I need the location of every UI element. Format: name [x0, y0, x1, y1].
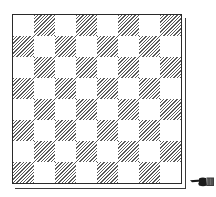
square-e4	[97, 99, 118, 120]
square-c1	[55, 162, 76, 183]
square-f2	[118, 141, 139, 162]
square-c8	[55, 15, 76, 36]
square-e8	[97, 15, 118, 36]
square-a7	[13, 36, 34, 57]
square-a6	[13, 57, 34, 78]
square-e1	[97, 162, 118, 183]
square-b8	[34, 15, 55, 36]
square-c5	[55, 78, 76, 99]
square-g1	[139, 162, 160, 183]
square-e2	[97, 141, 118, 162]
square-d3	[76, 120, 97, 141]
square-b2	[34, 141, 55, 162]
square-b6	[34, 57, 55, 78]
square-g7	[139, 36, 160, 57]
square-f6	[118, 57, 139, 78]
square-f3	[118, 120, 139, 141]
board-shadow-line-bottom	[15, 188, 186, 189]
square-h2	[160, 141, 181, 162]
square-h1	[160, 162, 181, 183]
square-c7	[55, 36, 76, 57]
square-d2	[76, 141, 97, 162]
square-b3	[34, 120, 55, 141]
pointing-hand-icon	[189, 176, 216, 188]
square-a1	[13, 162, 34, 183]
square-b4	[34, 99, 55, 120]
square-h8	[160, 15, 181, 36]
square-h4	[160, 99, 181, 120]
square-b7	[34, 36, 55, 57]
square-d1	[76, 162, 97, 183]
square-a4	[13, 99, 34, 120]
square-h6	[160, 57, 181, 78]
square-f5	[118, 78, 139, 99]
board-shadow-line-right	[185, 18, 186, 188]
square-c3	[55, 120, 76, 141]
square-f1	[118, 162, 139, 183]
square-h7	[160, 36, 181, 57]
square-f4	[118, 99, 139, 120]
square-g4	[139, 99, 160, 120]
square-d5	[76, 78, 97, 99]
square-e7	[97, 36, 118, 57]
square-b5	[34, 78, 55, 99]
square-c6	[55, 57, 76, 78]
square-d8	[76, 15, 97, 36]
square-g6	[139, 57, 160, 78]
square-a2	[13, 141, 34, 162]
square-c2	[55, 141, 76, 162]
square-h5	[160, 78, 181, 99]
square-g3	[139, 120, 160, 141]
square-a5	[13, 78, 34, 99]
square-g8	[139, 15, 160, 36]
square-c4	[55, 99, 76, 120]
chessboard-grid	[13, 15, 181, 183]
square-f8	[118, 15, 139, 36]
square-b1	[34, 162, 55, 183]
square-e3	[97, 120, 118, 141]
square-a8	[13, 15, 34, 36]
square-e6	[97, 57, 118, 78]
square-g2	[139, 141, 160, 162]
square-f7	[118, 36, 139, 57]
square-h3	[160, 120, 181, 141]
square-g5	[139, 78, 160, 99]
square-d7	[76, 36, 97, 57]
square-d4	[76, 99, 97, 120]
square-d6	[76, 57, 97, 78]
square-e5	[97, 78, 118, 99]
square-a3	[13, 120, 34, 141]
chessboard	[12, 14, 182, 184]
